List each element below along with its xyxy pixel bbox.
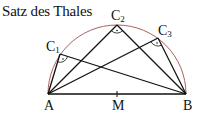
label-a: A: [44, 98, 55, 113]
label-c3: C3: [158, 23, 172, 39]
label-c2: C2: [111, 8, 125, 24]
label-b: B: [183, 98, 192, 113]
thales-diagram: A M B C1 C2 C3: [0, 0, 203, 114]
label-m: M: [112, 98, 125, 113]
label-c1: C1: [46, 39, 60, 55]
right-angle-marker-c2: [111, 30, 122, 33]
triangle-c3: [48, 38, 186, 94]
